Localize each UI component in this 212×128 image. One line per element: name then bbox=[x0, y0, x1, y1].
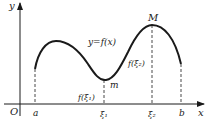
y-axis-label: y bbox=[8, 0, 15, 11]
tick-b: b bbox=[179, 108, 185, 118]
max-point-label: M bbox=[147, 12, 159, 23]
tick-a: a bbox=[33, 108, 38, 118]
x-axis-label: x bbox=[198, 107, 204, 118]
tick-xi1: ξ₁ bbox=[100, 110, 108, 119]
function-curve bbox=[35, 25, 181, 80]
function-extrema-diagram: y x O y=f(x) M m f(ξ₁) f(ξ₂) a ξ₁ ξ₂ b bbox=[0, 0, 212, 128]
f-xi1-label: f(ξ₁) bbox=[77, 93, 95, 102]
tick-xi2: ξ₂ bbox=[148, 110, 156, 119]
origin-label: O bbox=[10, 106, 18, 117]
min-point-label: m bbox=[110, 80, 119, 90]
curve-label: y=f(x) bbox=[87, 37, 117, 47]
f-xi2-label: f(ξ₂) bbox=[127, 59, 145, 68]
